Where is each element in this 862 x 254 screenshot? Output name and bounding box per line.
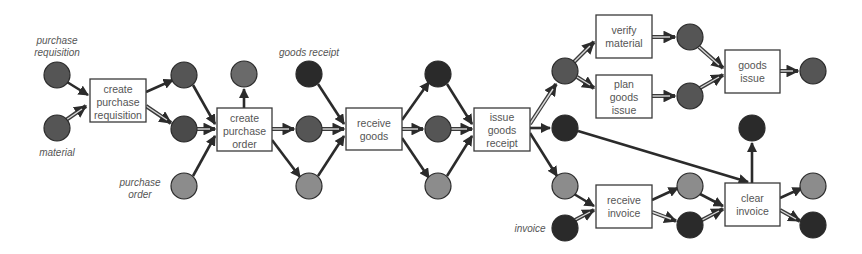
place-order-out-top[interactable]	[231, 61, 257, 87]
place-requisition-out-1[interactable]	[171, 62, 197, 88]
transition-receive-goods[interactable]: receive goods	[346, 108, 402, 150]
place-invoice[interactable]	[552, 215, 578, 241]
label-line: goods	[610, 91, 639, 103]
annotation-line: purchase	[118, 177, 161, 188]
label-line: clear	[741, 192, 764, 204]
label-line: material	[605, 37, 642, 49]
place-order-out-bottom[interactable]	[296, 173, 322, 199]
place-receive-out-top[interactable]	[425, 61, 451, 87]
label-line: invoice	[736, 205, 769, 217]
transition-create-purchase-order[interactable]: create purchase order	[217, 108, 272, 151]
annotation-line: invoice	[514, 223, 546, 234]
annotation-line: material	[39, 147, 75, 158]
annotation-line: requisition	[34, 47, 80, 58]
label-line: issue	[740, 72, 765, 84]
label-line: goods	[360, 130, 389, 142]
place-purchase-order[interactable]	[171, 173, 197, 199]
process-diagram: create purchase requisition create purch…	[0, 0, 862, 254]
label-line: issue	[490, 111, 515, 123]
place-requisition-out-2[interactable]	[171, 116, 197, 142]
place-issue-out-top[interactable]	[552, 58, 578, 84]
annotation-purchase-requisition: purchase requisition	[34, 35, 80, 58]
place-goods-receipt[interactable]	[296, 61, 322, 87]
annotation-invoice: invoice	[514, 223, 546, 234]
transition-clear-invoice[interactable]: clear invoice	[725, 183, 780, 226]
annotation-purchase-order: purchase order	[118, 177, 161, 200]
transition-receive-invoice[interactable]: receive invoice	[596, 185, 652, 228]
place-receive-out-mid[interactable]	[425, 116, 451, 142]
transition-create-purchase-requisition[interactable]: create purchase requisition	[90, 79, 146, 122]
label-line: goods	[738, 59, 767, 71]
place-verify-out[interactable]	[677, 24, 703, 50]
label-line: purchase	[96, 96, 139, 108]
label-line: goods	[488, 124, 517, 136]
label-line: create	[103, 83, 132, 95]
transition-plan-goods-issue[interactable]: plan goods issue	[596, 75, 652, 118]
annotation-material: material	[39, 147, 75, 158]
annotation-goods-receipt: goods receipt	[279, 47, 340, 58]
place-issue-out-bottom[interactable]	[552, 173, 578, 199]
annotation-line: goods receipt	[279, 47, 340, 58]
place-invoice-out-2[interactable]	[677, 212, 703, 238]
label-line: purchase	[223, 125, 266, 137]
place-invoice-out-1[interactable]	[677, 173, 703, 199]
label-line: order	[232, 138, 257, 150]
place-plan-out[interactable]	[677, 83, 703, 109]
label-line: requisition	[94, 109, 142, 121]
label-line: receive	[607, 194, 641, 206]
label-line: plan	[614, 78, 634, 90]
label-line: issue	[612, 104, 637, 116]
place-material[interactable]	[44, 115, 70, 141]
transition-issue-goods-receipt[interactable]: issue goods receipt	[474, 108, 530, 151]
label-line: receipt	[486, 137, 518, 149]
place-clear-out-1[interactable]	[800, 173, 826, 199]
label-line: verify	[611, 24, 637, 36]
label-line: create	[230, 112, 259, 124]
place-goods-issue-out[interactable]	[800, 58, 826, 84]
transition-goods-issue[interactable]: goods issue	[725, 50, 780, 93]
place-clear-out-2[interactable]	[800, 212, 826, 238]
place-receive-out-bottom[interactable]	[425, 173, 451, 199]
annotation-line: order	[128, 189, 152, 200]
place-clear-out-top[interactable]	[739, 115, 765, 141]
transition-verify-material[interactable]: verify material	[596, 15, 652, 58]
place-purchase-requisition[interactable]	[44, 62, 70, 88]
place-order-out-mid[interactable]	[296, 116, 322, 142]
label-line: receive	[357, 117, 391, 129]
place-issue-out-mid[interactable]	[552, 115, 578, 141]
label-line: invoice	[608, 207, 641, 219]
annotation-line: purchase	[35, 35, 78, 46]
